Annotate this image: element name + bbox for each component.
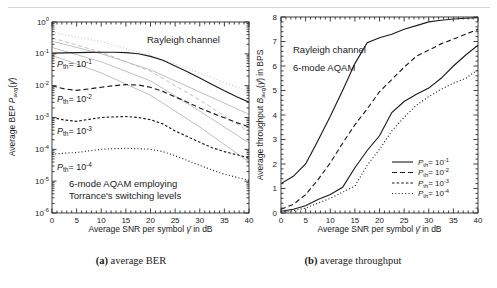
svg-text:4: 4 <box>273 111 278 120</box>
svg-text:3: 3 <box>273 135 278 144</box>
svg-text:10-5: 10-5 <box>35 176 49 186</box>
series-group <box>52 32 249 180</box>
svg-text:35: 35 <box>220 216 229 225</box>
pth-1e-3-label: Pth= 10-3 <box>57 125 92 138</box>
caption-a: (a) average BER <box>41 255 221 266</box>
svg-text:6: 6 <box>273 62 278 71</box>
svg-text:0: 0 <box>50 216 55 225</box>
svg-text:10-3: 10-3 <box>35 112 49 122</box>
caption-a-label: (a) <box>96 255 108 266</box>
legend-label-3: Pth= 10-4 <box>418 188 450 199</box>
svg-text:10-1: 10-1 <box>35 48 49 58</box>
scheme-label: 6-mode AQAM <box>293 62 355 73</box>
svg-text:7: 7 <box>273 37 278 46</box>
svg-text:1: 1 <box>273 184 278 193</box>
pth-1e-2-label: Pth= 10-2 <box>57 93 92 106</box>
legend-label-1: Pth= 10-2 <box>418 167 449 178</box>
scheme-label-line2: Torrance's switching levels <box>69 190 181 201</box>
svg-text:10-4: 10-4 <box>35 144 50 154</box>
svg-text:35: 35 <box>449 216 458 225</box>
rayleigh-channel-label: Rayleigh channel <box>147 34 220 45</box>
caption-b: (b) average throughput <box>263 255 443 266</box>
y-axis-label: Average throughput Bavg(γ̄) in BPS <box>255 49 266 180</box>
legend-label-2: Pth= 10-3 <box>418 178 449 189</box>
figure-canvas: 051015202530354010010-110-210-310-410-51… <box>0 0 497 288</box>
y-axis-label: Average BEP Pavg(γ̄) <box>7 78 18 157</box>
caption-b-label: (b) <box>305 255 318 266</box>
svg-text:0: 0 <box>279 216 284 225</box>
caption-b-text: average throughput <box>317 255 401 266</box>
legend: Pth= 10-1Pth= 10-2Pth= 10-3Pth= 10-4 <box>392 157 450 199</box>
svg-text:5: 5 <box>273 86 278 95</box>
svg-text:2: 2 <box>273 160 278 169</box>
svg-text:0: 0 <box>273 209 278 218</box>
x-axis-label: Average SNR per symbol γ̄ in dB <box>317 224 441 234</box>
pth-1e-4-label: Pth= 10-4 <box>57 161 92 174</box>
caption-a-text: average BER <box>108 255 166 266</box>
svg-text:10-2: 10-2 <box>35 80 49 90</box>
svg-text:8: 8 <box>273 13 278 22</box>
svg-text:10-6: 10-6 <box>35 207 49 217</box>
ber-chart: 051015202530354010010-110-210-310-410-51… <box>0 0 262 242</box>
svg-text:40: 40 <box>474 216 483 225</box>
throughput-chart: 0510152025303540012345678Rayleigh channe… <box>250 0 497 242</box>
svg-text:100: 100 <box>37 16 49 26</box>
series-pth-1e-3 <box>52 117 249 158</box>
rayleigh-channel-label: Rayleigh channel <box>293 44 366 55</box>
legend-label-0: Pth= 10-1 <box>418 157 449 168</box>
scheme-label-line1: 6-mode AQAM employing <box>69 178 177 189</box>
x-axis-label: Average SNR per symbol γ̄ in dB <box>88 224 212 234</box>
svg-text:5: 5 <box>303 216 308 225</box>
svg-text:5: 5 <box>74 216 79 225</box>
